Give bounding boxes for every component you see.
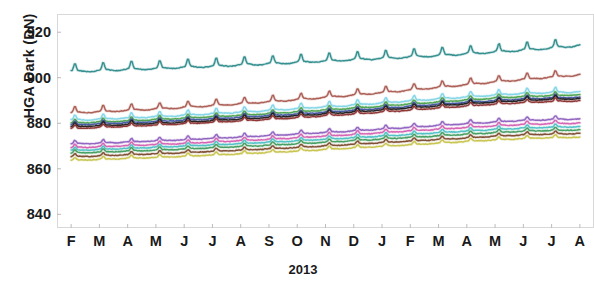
x-tick-label: F (67, 233, 76, 249)
x-tick-label: J (180, 233, 188, 249)
x-tick-label: J (378, 233, 386, 249)
x-tick-label: S (264, 233, 274, 249)
x-tick-label: A (462, 233, 472, 249)
x-tick-label: M (489, 233, 501, 249)
x-tick-label: M (433, 233, 445, 249)
x-axis-title-text: 2013 (289, 262, 318, 277)
x-tick-label: F (406, 233, 415, 249)
x-tick-label: M (93, 233, 105, 249)
x-tick-label: A (122, 233, 132, 249)
x-tick-label: A (575, 233, 585, 249)
x-tick-label: N (320, 233, 330, 249)
x-tick-label: M (150, 233, 162, 249)
x-tick-label: A (235, 233, 245, 249)
chart-figure: HGA Dark (DN) 840860880900920 FMAMJJASON… (0, 0, 594, 283)
x-axis-title: 2013 (0, 262, 594, 277)
x-tick-label: O (292, 233, 303, 249)
series-detector-01 (71, 40, 580, 72)
x-tick-label: J (519, 233, 527, 249)
x-tick-label: J (208, 233, 216, 249)
x-tick-label: J (548, 233, 556, 249)
x-tick-label: D (349, 233, 359, 249)
